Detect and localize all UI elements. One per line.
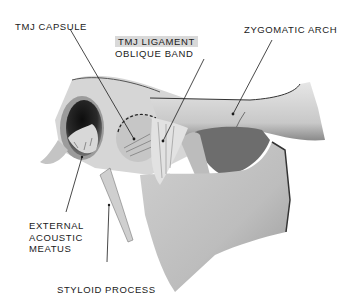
leader-line-styloid-process bbox=[107, 205, 109, 262]
label-tmj-ligament: TMJ LIGAMENT OBLIQUE BAND bbox=[115, 36, 198, 59]
external-acoustic-meatus-shape bbox=[40, 96, 104, 164]
label-tmj-ligament-line1: TMJ LIGAMENT bbox=[115, 36, 198, 47]
label-tmj-ligament-line2: OBLIQUE BAND bbox=[115, 48, 193, 59]
label-zygomatic-arch: ZYGOMATIC ARCH bbox=[244, 24, 337, 36]
label-external-acoustic-line1: EXTERNAL bbox=[29, 220, 84, 231]
styloid-process-shape bbox=[100, 168, 133, 242]
leader-line-external-acoustic-meatus bbox=[66, 157, 82, 212]
label-tmj-capsule: TMJ CAPSULE bbox=[15, 21, 87, 33]
anatomy-figure: TMJ CAPSULE TMJ LIGAMENT OBLIQUE BAND ZY… bbox=[0, 0, 359, 298]
label-external-acoustic-line3: MEATUS bbox=[29, 243, 71, 254]
label-styloid-process: STYLOID PROCESS bbox=[57, 284, 156, 296]
label-external-acoustic-line2: ACOUSTIC bbox=[29, 232, 83, 243]
label-external-acoustic-meatus: EXTERNAL ACOUSTIC MEATUS bbox=[29, 220, 84, 255]
